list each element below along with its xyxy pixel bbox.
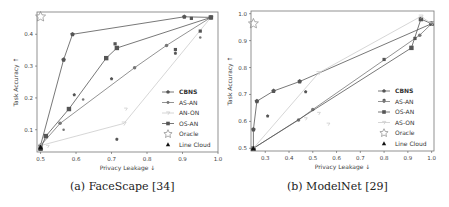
y-tick-label: 0.7 — [238, 91, 247, 97]
legend-label: CBNS — [395, 87, 413, 94]
legend-label: Line Cloud — [395, 140, 427, 147]
square-marker-icon — [382, 58, 385, 61]
y-tick-label: 0.6 — [238, 118, 247, 124]
dot-marker-icon — [199, 36, 202, 39]
y-tick-label: 0.9 — [238, 38, 247, 44]
square-marker-icon — [44, 134, 48, 138]
y-tick-label: 1.0 — [238, 11, 247, 17]
y-axis-label: Task Accuracy ↑ — [226, 56, 234, 106]
x-tick-label: 0.8 — [143, 156, 152, 162]
y-tick-label: 0.3 — [24, 63, 33, 69]
y-axis-label: Task Accuracy ↑ — [12, 57, 20, 107]
x-tick-label: 1.0 — [427, 155, 436, 161]
x-tick-label: 0.6 — [332, 155, 341, 161]
y-tick-label: 0.4 — [24, 31, 33, 37]
caption-facescape: (a) FaceScape [34] — [70, 180, 175, 193]
x-tick-label: 0.7 — [107, 156, 116, 162]
x-tick-label: 0.3 — [261, 155, 270, 161]
legend-label: Line Cloud — [179, 141, 211, 148]
chart-facescape: 0.50.60.70.80.91.00.10.20.30.4Privacy Le… — [0, 0, 225, 180]
square-marker-icon — [413, 37, 416, 40]
y-tick-label: 0.5 — [238, 145, 247, 151]
square-marker-icon — [190, 17, 193, 20]
caption-modelnet: (b) ModelNet [29] — [287, 180, 388, 193]
dot-marker-icon — [418, 33, 422, 37]
legend-label: AS-AN — [395, 98, 414, 105]
y-tick-label: 0.1 — [24, 127, 33, 133]
square-marker-icon — [104, 56, 108, 60]
x-axis-label: Privacy Leakage ↓ — [100, 164, 156, 172]
legend-label: AS-AN — [179, 99, 198, 106]
x-tick-label: 0.5 — [308, 155, 317, 161]
square-marker-icon — [115, 46, 119, 50]
dot-marker-icon — [58, 122, 62, 126]
dot-marker-icon — [62, 128, 65, 131]
square-marker-icon — [166, 122, 170, 126]
square-marker-icon — [67, 107, 71, 111]
legend-label: AS-ON — [395, 119, 414, 126]
dot-marker-icon — [82, 98, 85, 101]
y-tick-label: 0.2 — [24, 95, 33, 101]
x-tick-label: 0.4 — [285, 155, 294, 161]
y-tick-label: 0.8 — [238, 65, 247, 71]
legend-label: Oracle — [395, 129, 415, 136]
dot-marker-icon — [165, 44, 169, 48]
legend-label: Oracle — [179, 130, 199, 137]
x-tick-label: 0.8 — [380, 155, 389, 161]
x-tick-label: 0.5 — [36, 156, 45, 162]
dot-marker-icon — [383, 100, 386, 103]
x-tick-label: 1.0 — [214, 156, 223, 162]
square-marker-icon — [199, 29, 202, 32]
legend-label: CBNS — [179, 88, 197, 95]
square-marker-icon — [409, 46, 413, 50]
legend-label: OS-AN — [395, 108, 414, 115]
x-tick-label: 0.9 — [178, 156, 187, 162]
square-marker-icon — [113, 42, 116, 45]
x-tick-label: 0.7 — [356, 155, 365, 161]
square-marker-icon — [382, 110, 386, 114]
square-marker-icon — [209, 15, 213, 19]
square-marker-icon — [174, 48, 177, 51]
x-axis-label: Privacy Leakage ↓ — [315, 163, 371, 171]
x-tick-label: 0.6 — [72, 156, 81, 162]
legend-label: AN-ON — [179, 109, 199, 116]
x-tick-label: 0.9 — [403, 155, 412, 161]
legend-label: OS-AN — [179, 120, 198, 127]
chart-modelnet: 0.30.40.50.60.70.80.91.00.50.60.70.80.91… — [225, 0, 449, 180]
dot-marker-icon — [133, 66, 137, 70]
dot-marker-icon — [167, 101, 170, 104]
